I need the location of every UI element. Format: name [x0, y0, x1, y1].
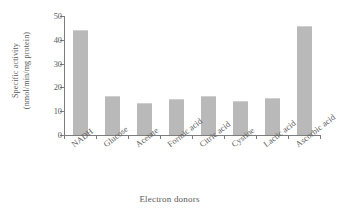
x-tick-mark	[192, 135, 193, 139]
y-tick-label: 20	[54, 83, 62, 92]
y-tick-label: 0	[58, 131, 62, 140]
y-tick-label: 50	[54, 12, 62, 21]
y-tick-label: 30	[54, 59, 62, 68]
x-tick-mark	[256, 135, 257, 139]
y-tick-label: 40	[54, 35, 62, 44]
y-axis-title-line-2: (nmol/min/mg protein)	[22, 31, 33, 108]
bar	[297, 26, 312, 135]
x-tick-mark	[64, 135, 65, 139]
x-tick-mark	[128, 135, 129, 139]
x-tick-mark	[320, 135, 321, 139]
x-tick-mark	[160, 135, 161, 139]
bar	[73, 30, 88, 135]
x-tick-mark	[224, 135, 225, 139]
x-tick-mark	[288, 135, 289, 139]
x-tick-mark	[96, 135, 97, 139]
bar-chart: Specific activity (nmol/min/mg protein) …	[0, 0, 339, 213]
x-axis-title: Electron donors	[0, 194, 339, 204]
y-axis-title: Specific activity (nmol/min/mg protein)	[0, 0, 44, 140]
y-tick-label: 10	[54, 107, 62, 116]
y-axis-line	[64, 16, 65, 135]
y-axis-title-line-1: Specific activity	[12, 31, 23, 108]
plot-area: 01020304050	[64, 16, 320, 135]
